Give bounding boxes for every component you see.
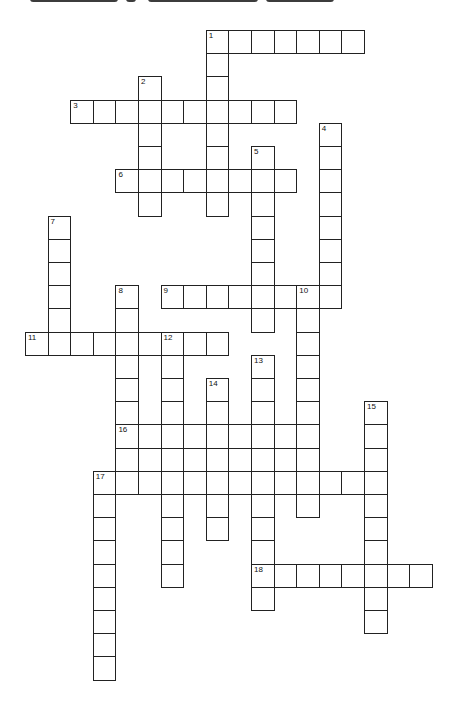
crossword-cell[interactable] — [206, 146, 230, 170]
crossword-cell[interactable]: 7 — [48, 216, 72, 240]
crossword-cell[interactable] — [319, 262, 343, 286]
crossword-cell[interactable] — [251, 239, 275, 263]
crossword-cell[interactable] — [93, 633, 117, 657]
crossword-cell[interactable]: 14 — [206, 378, 230, 402]
crossword-cell[interactable] — [161, 169, 185, 193]
crossword-cell[interactable] — [206, 332, 230, 356]
crossword-cell[interactable] — [161, 378, 185, 402]
crossword-cell[interactable] — [296, 448, 320, 472]
crossword-cell[interactable] — [364, 494, 388, 518]
crossword-cell[interactable] — [115, 401, 139, 425]
crossword-cell[interactable] — [296, 401, 320, 425]
crossword-cell[interactable] — [228, 448, 252, 472]
crossword-cell[interactable] — [319, 30, 343, 54]
crossword-cell[interactable]: 5 — [251, 146, 275, 170]
crossword-cell[interactable] — [115, 308, 139, 332]
crossword-cell[interactable]: 3 — [70, 100, 94, 124]
crossword-cell[interactable] — [251, 448, 275, 472]
crossword-cell[interactable] — [251, 494, 275, 518]
crossword-cell[interactable] — [251, 587, 275, 611]
crossword-cell[interactable] — [206, 123, 230, 147]
crossword-cell[interactable] — [183, 169, 207, 193]
crossword-cell[interactable] — [93, 564, 117, 588]
crossword-cell[interactable] — [296, 30, 320, 54]
crossword-cell[interactable] — [138, 448, 162, 472]
crossword-cell[interactable] — [93, 332, 117, 356]
crossword-cell[interactable] — [161, 100, 185, 124]
crossword-cell[interactable] — [251, 30, 275, 54]
crossword-cell[interactable] — [387, 564, 411, 588]
crossword-cell[interactable] — [161, 424, 185, 448]
crossword-cell[interactable] — [93, 540, 117, 564]
crossword-cell[interactable]: 16 — [115, 424, 139, 448]
crossword-cell[interactable]: 17 — [93, 471, 117, 495]
crossword-cell[interactable] — [161, 471, 185, 495]
crossword-cell[interactable] — [93, 587, 117, 611]
crossword-cell[interactable] — [251, 216, 275, 240]
crossword-cell[interactable] — [319, 239, 343, 263]
crossword-cell[interactable] — [251, 262, 275, 286]
crossword-cell[interactable]: 13 — [251, 355, 275, 379]
crossword-cell[interactable] — [161, 517, 185, 541]
crossword-cell[interactable] — [161, 564, 185, 588]
crossword-cell[interactable] — [183, 448, 207, 472]
crossword-cell[interactable] — [274, 564, 298, 588]
crossword-cell[interactable] — [228, 424, 252, 448]
crossword-cell[interactable] — [115, 378, 139, 402]
crossword-cell[interactable] — [274, 285, 298, 309]
crossword-cell[interactable] — [70, 332, 94, 356]
crossword-cell[interactable] — [138, 123, 162, 147]
crossword-cell[interactable] — [274, 30, 298, 54]
crossword-cell[interactable] — [296, 378, 320, 402]
crossword-cell[interactable]: 15 — [364, 401, 388, 425]
crossword-cell[interactable] — [183, 332, 207, 356]
crossword-cell[interactable] — [138, 332, 162, 356]
crossword-cell[interactable] — [364, 610, 388, 634]
crossword-cell[interactable] — [115, 332, 139, 356]
crossword-cell[interactable] — [115, 355, 139, 379]
crossword-cell[interactable] — [296, 424, 320, 448]
crossword-cell[interactable] — [206, 401, 230, 425]
crossword-cell[interactable]: 6 — [115, 169, 139, 193]
crossword-cell[interactable] — [138, 471, 162, 495]
crossword-cell[interactable] — [296, 471, 320, 495]
crossword-cell[interactable] — [93, 100, 117, 124]
crossword-cell[interactable]: 8 — [115, 285, 139, 309]
crossword-cell[interactable] — [251, 401, 275, 425]
crossword-cell[interactable] — [319, 146, 343, 170]
crossword-cell[interactable] — [251, 471, 275, 495]
crossword-cell[interactable] — [183, 100, 207, 124]
crossword-cell[interactable] — [228, 169, 252, 193]
crossword-cell[interactable] — [161, 540, 185, 564]
crossword-cell[interactable] — [138, 424, 162, 448]
crossword-cell[interactable] — [364, 471, 388, 495]
crossword-cell[interactable]: 10 — [296, 285, 320, 309]
crossword-cell[interactable] — [138, 100, 162, 124]
crossword-cell[interactable] — [341, 564, 365, 588]
crossword-cell[interactable] — [183, 285, 207, 309]
crossword-cell[interactable] — [48, 285, 72, 309]
crossword-cell[interactable] — [206, 424, 230, 448]
crossword-cell[interactable]: 11 — [25, 332, 49, 356]
crossword-cell[interactable] — [206, 448, 230, 472]
crossword-cell[interactable] — [251, 378, 275, 402]
crossword-cell[interactable]: 12 — [161, 332, 185, 356]
crossword-cell[interactable] — [341, 471, 365, 495]
crossword-cell[interactable] — [251, 517, 275, 541]
crossword-cell[interactable] — [319, 471, 343, 495]
crossword-cell[interactable] — [228, 100, 252, 124]
crossword-cell[interactable] — [296, 494, 320, 518]
crossword-cell[interactable] — [319, 216, 343, 240]
crossword-cell[interactable] — [48, 239, 72, 263]
crossword-cell[interactable]: 9 — [161, 285, 185, 309]
crossword-cell[interactable] — [93, 656, 117, 680]
crossword-cell[interactable] — [138, 146, 162, 170]
crossword-cell[interactable] — [138, 192, 162, 216]
crossword-cell[interactable] — [93, 494, 117, 518]
crossword-cell[interactable] — [48, 308, 72, 332]
crossword-cell[interactable] — [251, 169, 275, 193]
crossword-cell[interactable] — [364, 540, 388, 564]
crossword-cell[interactable] — [319, 169, 343, 193]
crossword-cell[interactable] — [115, 448, 139, 472]
crossword-cell[interactable] — [206, 76, 230, 100]
